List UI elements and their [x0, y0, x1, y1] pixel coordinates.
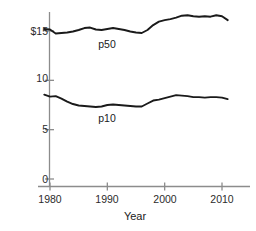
- series-annotation-p10: p10: [87, 113, 127, 124]
- y-tick-label-10: 10: [8, 73, 48, 84]
- line-chart: $15 10 5 0 1980 1990 2000 2010 p50 p10 Y…: [0, 0, 256, 231]
- x-tick-label-1980: 1980: [26, 194, 74, 205]
- x-axis-title: Year: [105, 211, 165, 222]
- y-tick-label-5: 5: [8, 124, 48, 135]
- series-annotation-p50: p50: [87, 39, 127, 50]
- x-tick-label-1990: 1990: [83, 194, 131, 205]
- x-tick-label-2000: 2000: [141, 194, 189, 205]
- series-line-p10: [44, 95, 227, 107]
- y-tick-label-15: $15: [8, 26, 48, 37]
- axes: [38, 12, 250, 191]
- series-line-p50: [44, 15, 227, 33]
- x-tick-label-2010: 2010: [198, 194, 246, 205]
- data-series: [44, 15, 227, 107]
- y-tick-label-0: 0: [8, 174, 48, 185]
